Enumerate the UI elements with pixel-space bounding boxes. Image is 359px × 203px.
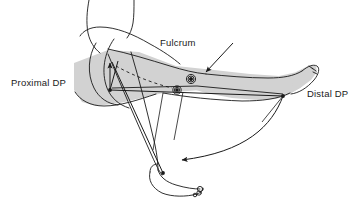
anatomy-diagram-figure: Proximal DP Distal DP Fulcrum	[0, 0, 359, 203]
label-distal-dp: Distal DP	[307, 88, 348, 99]
spiral-marker-icon-upper	[186, 74, 195, 83]
label-fulcrum: Fulcrum	[160, 37, 196, 48]
hanging-foot-sole	[150, 172, 204, 196]
torso-line-right	[127, 0, 134, 38]
lead-line-b	[174, 92, 183, 140]
lead-line-a	[153, 93, 163, 150]
diagram-canvas	[0, 0, 359, 203]
dot-marker-icon-distal	[281, 94, 285, 98]
torso-line-left	[87, 0, 100, 53]
label-proximal-dp: Proximal DP	[11, 77, 66, 88]
arrow-icon-motion	[182, 96, 283, 160]
dot-marker-icon-proximal	[108, 88, 112, 92]
spiral-marker-icon-lower	[173, 86, 181, 94]
dot-marker-icon-lower-leg	[161, 171, 165, 175]
arrow-icon-fulcrum-pointer	[206, 43, 233, 72]
